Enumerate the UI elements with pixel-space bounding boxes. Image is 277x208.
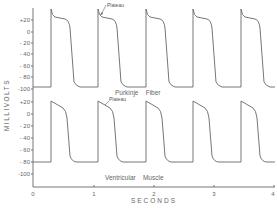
svg-text:Plateau: Plateau (109, 96, 126, 102)
y-axis-title: MILLIVOLTS (3, 79, 10, 131)
bottom-trace-title: Ventricular Muscle (105, 174, 164, 181)
top-plateau-annotation: Plateau (100, 2, 124, 15)
svg-text:-100: -100 (18, 86, 31, 92)
svg-text:-100: -100 (18, 171, 31, 177)
purkinje-trace (33, 9, 275, 87)
bottom-y-ticks: +20 0 - 20 - 40 - 60 - 80 -100 (18, 99, 33, 177)
svg-text:- 80: - 80 (20, 74, 31, 80)
bottom-plateau-annotation: Plateau (105, 96, 126, 105)
svg-text:1: 1 (92, 191, 96, 197)
svg-text:0: 0 (31, 191, 35, 197)
svg-text:- 20: - 20 (20, 123, 31, 129)
svg-text:- 80: - 80 (20, 159, 31, 165)
svg-text:Plateau: Plateau (107, 2, 124, 8)
x-axis-title: SECONDS (131, 197, 177, 204)
svg-text:- 60: - 60 (20, 63, 31, 69)
svg-text:+20: +20 (20, 17, 31, 23)
svg-text:- 40: - 40 (20, 135, 31, 141)
svg-text:- 20: - 20 (20, 40, 31, 46)
svg-text:0: 0 (27, 29, 31, 35)
top-y-ticks: +20 0 - 20 - 40 - 60 - 80 -100 (18, 17, 33, 92)
svg-text:- 60: - 60 (20, 147, 31, 153)
svg-text:0: 0 (27, 111, 31, 117)
ventricular-trace (33, 101, 275, 162)
svg-text:+20: +20 (20, 99, 31, 105)
svg-text:- 40: - 40 (20, 51, 31, 57)
action-potential-chart: +20 0 - 20 - 40 - 60 - 80 -100 +20 0 - 2… (0, 0, 277, 208)
svg-text:4: 4 (271, 191, 275, 197)
svg-text:3: 3 (212, 191, 216, 197)
